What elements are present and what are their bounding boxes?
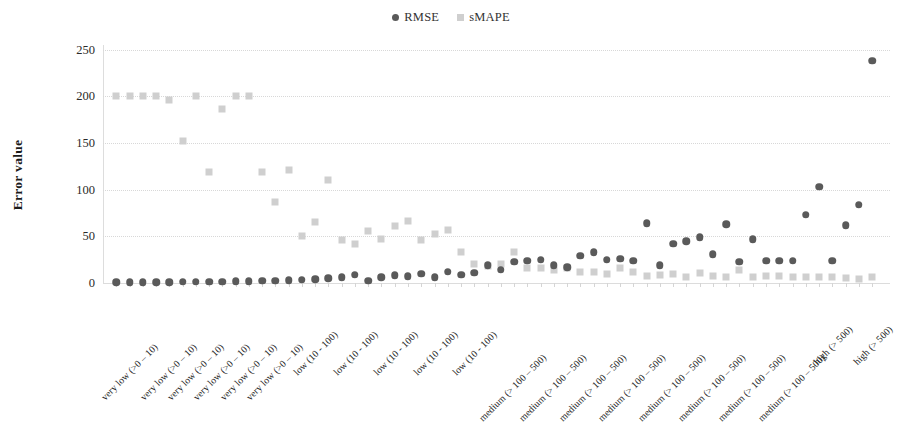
x-axis-tick-mark: [408, 283, 409, 287]
data-point-rmse: [179, 278, 187, 286]
data-point-smape: [763, 272, 770, 279]
data-point-rmse: [603, 256, 611, 264]
gridline: [103, 143, 890, 144]
x-axis-tick-mark: [779, 283, 780, 287]
legend-entry-rmse: RMSE: [392, 10, 439, 25]
data-point-rmse: [139, 279, 147, 287]
data-point-rmse: [484, 262, 492, 270]
x-axis-tick-mark: [381, 283, 382, 287]
data-point-smape: [696, 269, 703, 276]
data-point-rmse: [166, 278, 174, 286]
data-point-smape: [458, 249, 465, 256]
x-axis-tick-label: medium (> 100 – 500): [580, 288, 652, 360]
x-axis-tick-mark: [567, 283, 568, 287]
y-axis-tick-label: 100: [76, 182, 95, 197]
data-point-smape: [418, 237, 425, 244]
data-point-smape: [603, 270, 610, 277]
data-point-rmse: [643, 220, 651, 228]
data-point-rmse: [245, 277, 253, 285]
x-axis-tick-mark: [673, 283, 674, 287]
x-axis-tick-mark: [355, 283, 356, 287]
data-point-smape: [617, 265, 624, 272]
data-point-rmse: [736, 258, 744, 266]
data-point-rmse: [683, 237, 691, 245]
x-axis-tick-mark: [488, 283, 489, 287]
data-point-smape: [312, 219, 319, 226]
x-axis-tick-mark: [527, 283, 528, 287]
data-point-rmse: [192, 278, 200, 286]
x-axis-tick-mark: [448, 283, 449, 287]
data-point-rmse: [232, 278, 240, 286]
data-point-rmse: [444, 268, 452, 276]
data-point-smape: [855, 276, 862, 283]
x-axis-tick-mark: [474, 283, 475, 287]
x-axis-tick-mark: [832, 283, 833, 287]
data-point-rmse: [868, 57, 876, 65]
data-point-rmse: [378, 274, 386, 282]
data-point-rmse: [272, 277, 280, 285]
data-point-smape: [325, 177, 332, 184]
data-point-smape: [179, 138, 186, 145]
data-point-rmse: [550, 262, 558, 270]
x-axis-tick-mark: [766, 283, 767, 287]
x-axis-tick-labels: very low (>0 – 10)very low (>0 – 10)very…: [103, 288, 890, 428]
legend-marker-circle-icon: [392, 14, 399, 21]
data-point-smape: [378, 236, 385, 243]
data-point-smape: [683, 274, 690, 281]
data-point-smape: [816, 274, 823, 281]
y-axis-tick-label: 0: [89, 276, 95, 291]
x-axis-tick-label: medium (> 100 – 500): [779, 288, 851, 360]
data-point-rmse: [471, 269, 479, 277]
x-axis-tick-mark: [395, 283, 396, 287]
data-point-smape: [537, 265, 544, 272]
y-axis-tick-label: 200: [76, 89, 95, 104]
x-axis-tick-mark: [686, 283, 687, 287]
data-point-smape: [776, 273, 783, 280]
x-axis-tick-mark: [421, 283, 422, 287]
data-point-smape: [298, 233, 305, 240]
data-point-smape: [365, 227, 372, 234]
x-axis-tick-mark: [541, 283, 542, 287]
data-point-rmse: [669, 240, 677, 248]
gridline: [103, 96, 890, 97]
data-point-smape: [259, 168, 266, 175]
legend-entry-smape: sMAPE: [457, 10, 510, 25]
x-axis-tick-label: medium (> 100 – 500): [660, 288, 732, 360]
data-point-rmse: [126, 279, 134, 287]
data-point-smape: [404, 218, 411, 225]
data-point-smape: [643, 272, 650, 279]
x-axis-tick-mark: [660, 283, 661, 287]
data-point-smape: [431, 231, 438, 238]
data-point-rmse: [616, 255, 624, 263]
data-point-rmse: [298, 276, 306, 284]
x-axis-tick-mark: [302, 283, 303, 287]
data-point-rmse: [524, 257, 532, 265]
x-axis-tick-label: medium (> 100 – 500): [739, 288, 811, 360]
x-axis-tick-mark: [607, 283, 608, 287]
data-point-rmse: [722, 220, 730, 228]
data-point-rmse: [577, 252, 585, 260]
x-axis-tick-mark: [594, 283, 595, 287]
x-axis-tick-mark: [633, 283, 634, 287]
data-point-smape: [139, 93, 146, 100]
x-axis-tick-mark: [872, 283, 873, 287]
x-axis-tick-mark: [846, 283, 847, 287]
x-axis-tick-label: medium (> 100 – 500): [620, 288, 692, 360]
data-point-smape: [285, 167, 292, 174]
data-point-smape: [338, 237, 345, 244]
data-point-rmse: [219, 278, 227, 286]
data-point-smape: [444, 226, 451, 233]
data-point-rmse: [510, 258, 518, 266]
data-point-smape: [192, 93, 199, 100]
x-axis-tick-label: medium (> 100 – 500): [540, 288, 612, 360]
data-point-smape: [232, 93, 239, 100]
y-axis-title: Error value: [10, 140, 26, 211]
x-axis-tick-mark: [461, 283, 462, 287]
y-axis-line: [103, 45, 104, 283]
data-point-rmse: [457, 271, 465, 279]
x-axis-tick-mark: [554, 283, 555, 287]
data-point-smape: [245, 93, 252, 100]
x-axis-tick-mark: [514, 283, 515, 287]
data-point-smape: [802, 274, 809, 281]
x-axis-tick-mark: [620, 283, 621, 287]
